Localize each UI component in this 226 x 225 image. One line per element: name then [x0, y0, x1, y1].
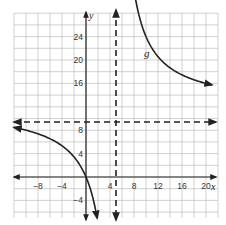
- y-tick-label: 8: [78, 125, 83, 135]
- graph: −8−448121620 24201684−4 y x g: [0, 0, 226, 225]
- x-tick-label: −8: [33, 181, 43, 191]
- y-tick-label: 24: [74, 32, 84, 42]
- x-tick-label: 12: [153, 181, 163, 191]
- curve-label-g: g: [144, 47, 150, 59]
- y-tick-label: 4: [78, 149, 83, 159]
- curve-g-left-branch: [14, 127, 97, 218]
- x-tick-label: 16: [177, 181, 187, 191]
- x-tick-label: 4: [108, 181, 113, 191]
- x-tick-label: 8: [132, 181, 137, 191]
- x-tick-label: 20: [201, 181, 211, 191]
- y-axis-label: y: [88, 10, 94, 21]
- x-tick-label: −4: [57, 181, 67, 191]
- x-axis-label: x: [210, 181, 216, 192]
- y-tick-label: 20: [74, 55, 84, 65]
- y-tick-label: −4: [73, 195, 83, 205]
- y-tick-label: 16: [74, 78, 84, 88]
